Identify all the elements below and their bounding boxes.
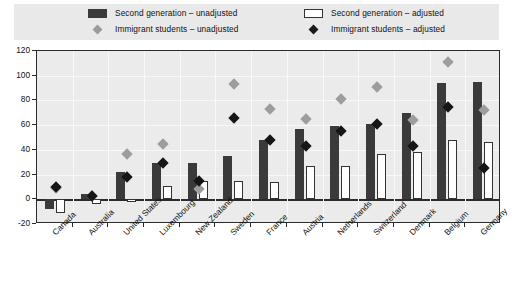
bar-second-generation-adjusted	[234, 181, 243, 200]
x-tick-mark	[143, 223, 144, 227]
legend-item-second-generation-unadjusted: Second generation – unadjusted	[86, 8, 237, 18]
bar-second-generation-unadjusted	[330, 126, 339, 199]
x-tick-mark	[286, 223, 287, 227]
y-tick-label: 20	[0, 169, 30, 179]
y-tick-label: 0	[0, 193, 30, 203]
bar-second-generation-adjusted	[127, 199, 136, 201]
bar-second-generation-adjusted	[448, 140, 457, 199]
bar-second-generation-adjusted	[270, 182, 279, 199]
grey-diamond-swatch-icon	[86, 26, 108, 33]
x-tick-mark	[357, 223, 358, 227]
bar-second-generation-unadjusted	[259, 140, 268, 199]
chart-page: Second generation – unadjusted Immigrant…	[0, 0, 513, 288]
legend-label: Second generation – unadjusted	[115, 8, 237, 18]
bar-second-generation-unadjusted	[295, 129, 304, 199]
x-tick-mark	[72, 223, 73, 227]
bar-second-generation-adjusted	[56, 199, 65, 213]
legend-item-immigrant-students-unadjusted: Immigrant students – unadjusted	[86, 24, 238, 34]
bar-second-generation-adjusted	[163, 186, 172, 200]
chart-legend: Second generation – unadjusted Immigrant…	[14, 4, 499, 40]
marker-immigrant-students-adjusted	[50, 181, 61, 192]
y-tick-label: 60	[0, 119, 30, 129]
x-tick-mark	[179, 223, 180, 227]
legend-item-immigrant-students-adjusted: Immigrant students – adjusted	[302, 24, 445, 34]
x-tick-mark	[107, 223, 108, 227]
bar-second-generation-unadjusted	[223, 156, 232, 199]
legend-label: Immigrant students – unadjusted	[115, 24, 238, 34]
legend-label: Immigrant students – adjusted	[331, 24, 445, 34]
black-diamond-swatch-icon	[302, 26, 324, 33]
dark-square-swatch-icon	[86, 9, 108, 18]
bar-second-generation-unadjusted	[402, 113, 411, 200]
marker-immigrant-students-unadjusted	[157, 138, 168, 149]
bar-second-generation-adjusted	[341, 166, 350, 199]
chart-plot-area: -20020406080100120 CanadaAustraliaUnited…	[0, 44, 513, 288]
bar-second-generation-unadjusted	[45, 199, 54, 209]
legend-label: Second generation – adjusted	[331, 8, 444, 18]
bar-second-generation-adjusted	[413, 152, 422, 199]
y-tick-mark	[32, 223, 36, 224]
bar-second-generation-unadjusted	[366, 124, 375, 199]
bar-second-generation-adjusted	[306, 166, 315, 199]
legend-item-second-generation-adjusted: Second generation – adjusted	[302, 8, 444, 18]
y-tick-label: 40	[0, 144, 30, 154]
x-tick-mark	[429, 223, 430, 227]
marker-immigrant-students-unadjusted	[300, 113, 311, 124]
x-tick-mark	[393, 223, 394, 227]
white-square-swatch-icon	[302, 9, 324, 18]
bar-second-generation-adjusted	[377, 154, 386, 200]
y-tick-label: -20	[0, 218, 30, 228]
bar-second-generation-unadjusted	[152, 163, 161, 199]
x-axis-labels: CanadaAustraliaUnited StatesLuxembourgNe…	[0, 44, 513, 114]
x-tick-mark	[214, 223, 215, 227]
x-tick-mark	[464, 223, 465, 227]
x-tick-mark	[250, 223, 251, 227]
x-tick-mark	[322, 223, 323, 227]
